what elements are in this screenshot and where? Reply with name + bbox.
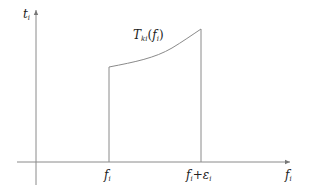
tick-label-f-i-plus-eps: fi+εi — [186, 169, 211, 183]
x-axis-label: fi — [285, 169, 292, 183]
y-axis-label: ti — [23, 8, 30, 22]
curve-label: Tki(fi) — [133, 29, 164, 43]
tick-label-f-i: fi — [104, 169, 111, 183]
